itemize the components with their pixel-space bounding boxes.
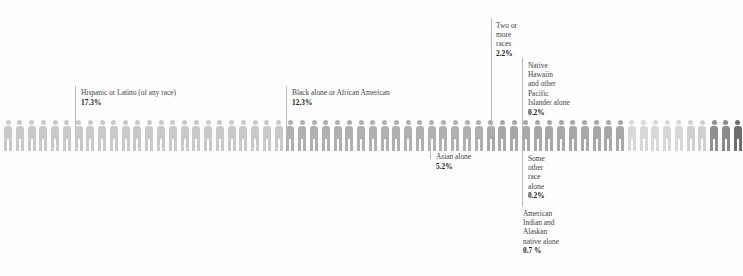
- person-icon: [273, 118, 284, 152]
- callout-pct-twomore: 2.2%: [496, 49, 540, 58]
- person-icon: [473, 118, 484, 152]
- person-icon: [332, 118, 343, 152]
- person-icon: [85, 118, 96, 152]
- callout-label-asian: Asian alone: [436, 152, 498, 161]
- person-icon: [261, 118, 272, 152]
- person-icon: [450, 118, 461, 152]
- callout-pct-nhpi: 0.2%: [528, 108, 590, 117]
- person-icon: [414, 118, 425, 152]
- person-icon: [167, 118, 178, 152]
- person-icon: [179, 118, 190, 152]
- callout-asian: Asian alone 5.2%: [436, 152, 498, 171]
- person-icon: [662, 118, 673, 152]
- leader-line-other: [522, 137, 523, 159]
- person-icon: [61, 118, 72, 152]
- person-icon: [379, 118, 390, 152]
- person-icon: [720, 118, 731, 152]
- leader-line-nhpi: [522, 58, 523, 134]
- person-icon: [509, 118, 520, 152]
- person-icon: [438, 118, 449, 152]
- person-icon: [356, 118, 367, 152]
- person-icon: [556, 118, 567, 152]
- person-icon: [3, 118, 14, 152]
- person-icon: [709, 118, 720, 152]
- person-icon: [367, 118, 378, 152]
- person-icon: [426, 118, 437, 152]
- person-icon: [391, 118, 402, 152]
- person-icon: [626, 118, 637, 152]
- person-icon: [226, 118, 237, 152]
- callout-black: Black alone or African American 12.3%: [292, 88, 452, 107]
- callout-label-hispanic: Hispanic or Latino (of any race): [81, 88, 241, 97]
- person-icon: [120, 118, 131, 152]
- person-icon: [403, 118, 414, 152]
- callout-aian: American Indian and Alaskan native alone…: [523, 209, 585, 256]
- person-icon: [309, 118, 320, 152]
- leader-line-black: [286, 86, 287, 134]
- leader-line-aian: [522, 159, 523, 207]
- person-icon: [320, 118, 331, 152]
- person-icon: [132, 118, 143, 152]
- callout-nhpi: Native Hawaiin and other Pacific Islande…: [528, 61, 590, 117]
- person-icon: [462, 118, 473, 152]
- callout-label-nhpi: Native Hawaiin and other Pacific Islande…: [528, 61, 590, 107]
- callout-pct-black: 12.3%: [292, 98, 452, 107]
- callout-other: Some other race alone 0.2%: [528, 154, 572, 201]
- person-icon: [203, 118, 214, 152]
- person-icon: [38, 118, 49, 152]
- person-icon: [97, 118, 108, 152]
- person-icon: [214, 118, 225, 152]
- person-icon: [297, 118, 308, 152]
- callout-label-twomore: Two or more races: [496, 21, 540, 49]
- person-icon: [144, 118, 155, 152]
- callout-pct-asian: 5.2%: [436, 162, 498, 171]
- person-icon: [732, 118, 743, 152]
- person-icon: [615, 118, 626, 152]
- person-icon: [26, 118, 37, 152]
- callout-pct-hispanic: 17.3%: [81, 98, 241, 107]
- leader-line-twomore: [491, 18, 492, 134]
- person-icon: [697, 118, 708, 152]
- person-icon: [344, 118, 355, 152]
- person-icon: [603, 118, 614, 152]
- leader-line-asian: [430, 135, 431, 159]
- person-icon: [673, 118, 684, 152]
- person-icon: [579, 118, 590, 152]
- person-icon: [532, 118, 543, 152]
- person-icon: [108, 118, 119, 152]
- callout-label-aian: American Indian and Alaskan native alone: [523, 209, 585, 246]
- person-icon: [567, 118, 578, 152]
- callout-twomore: Two or more races 2.2%: [496, 21, 540, 58]
- person-icon: [250, 118, 261, 152]
- person-icon: [685, 118, 696, 152]
- callout-hispanic: Hispanic or Latino (of any race) 17.3%: [81, 88, 241, 107]
- person-icon: [650, 118, 661, 152]
- leader-line-hispanic: [75, 86, 76, 134]
- person-icon: [14, 118, 25, 152]
- callout-pct-aian: 0.7 %: [523, 246, 585, 255]
- person-icon: [591, 118, 602, 152]
- callout-label-black: Black alone or African American: [292, 88, 452, 97]
- person-icon: [191, 118, 202, 152]
- callout-pct-other: 0.2%: [528, 191, 572, 200]
- person-icon: [156, 118, 167, 152]
- person-icon: [238, 118, 249, 152]
- callout-label-other: Some other race alone: [528, 154, 572, 191]
- pictogram-figure-row: [0, 118, 540, 154]
- person-icon: [50, 118, 61, 152]
- person-icon: [497, 118, 508, 152]
- person-icon: [544, 118, 555, 152]
- person-icon: [638, 118, 649, 152]
